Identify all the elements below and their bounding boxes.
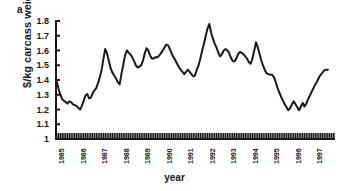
y-tick-label: 1.3: [23, 91, 49, 100]
x-tick-label: 1985: [58, 148, 65, 164]
x-tick-label: 1987: [101, 148, 108, 164]
x-axis-title: year: [0, 172, 349, 183]
x-tick-label: 1990: [166, 148, 173, 164]
x-tick-label: 1997: [316, 148, 323, 164]
y-tick-label: 1.4: [23, 76, 49, 85]
x-tick-label: 1993: [230, 148, 237, 164]
x-tick-label: 1989: [144, 148, 151, 164]
figure-panel-a: a $/kg carcass weight 11.11.21.31.41.51.…: [0, 0, 349, 191]
data-series-line: [55, 24, 328, 110]
y-tick-label: 1.5: [23, 61, 49, 70]
x-tick-label: 1991: [187, 148, 194, 164]
x-tick-label: 1986: [80, 148, 87, 164]
axes-group: [55, 20, 335, 140]
x-tick-label: 1995: [273, 148, 280, 164]
y-tick-label: 1: [23, 135, 49, 144]
y-tick-label: 1.6: [23, 47, 49, 56]
y-tick-label: 1.7: [23, 32, 49, 41]
y-tick-label: 1.1: [23, 120, 49, 129]
y-tick-label: 1.8: [23, 17, 49, 26]
line-chart-svg: [55, 20, 335, 140]
x-tick-label: 1992: [209, 148, 216, 164]
plot-area: [55, 20, 335, 140]
y-tick-label: 1.2: [23, 106, 49, 115]
x-tick-label: 1988: [123, 148, 130, 164]
x-tick-label: 1996: [295, 148, 302, 164]
x-tick-label: 1994: [252, 148, 259, 164]
